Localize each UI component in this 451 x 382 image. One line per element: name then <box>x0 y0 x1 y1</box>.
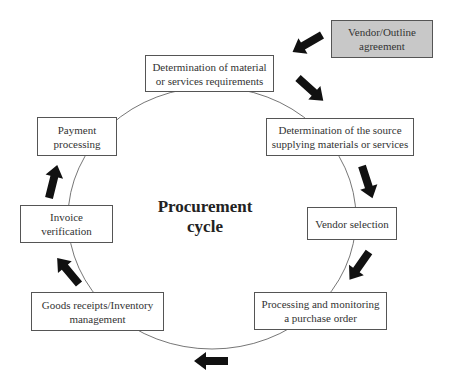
step-label: Payment <box>58 124 97 136</box>
step-label: Invoice <box>50 211 83 223</box>
step-label: Goods receipts/Inventory <box>42 299 154 311</box>
arrow-processing-to-goods-icon <box>194 352 228 370</box>
agreement-line2: agreement <box>359 40 405 52</box>
step-label: processing <box>53 138 100 150</box>
title-line2: cycle <box>187 217 223 236</box>
step-label: Determination of material <box>152 61 266 73</box>
step-goods-receipt-box: Goods receipts/Inventorymanagement <box>31 292 164 331</box>
arrow-agreement-to-requirements-icon <box>288 27 326 60</box>
step-purchase-order-box: Processing and monitoringa purchase orde… <box>254 292 387 330</box>
agreement-line1: Vendor/Outline <box>348 26 416 38</box>
step-label: a purchase order <box>284 312 357 324</box>
step-requirements-box: Determination of materialor services req… <box>145 55 274 92</box>
diagram-title: Procurement cycle <box>145 197 265 237</box>
step-label: management <box>69 313 125 325</box>
step-vendor-selection-box: Vendor selection <box>307 207 397 240</box>
step-label: Determination of the source <box>278 124 401 136</box>
step-label: Vendor selection <box>315 217 389 231</box>
title-line1: Procurement <box>158 197 253 216</box>
vendor-outline-agreement-box: Vendor/Outlineagreement <box>331 20 433 58</box>
step-label: supplying materials or services <box>272 138 409 150</box>
step-label: verification <box>41 225 92 237</box>
step-source-box: Determination of the sourcesupplying mat… <box>266 118 414 156</box>
step-payment-processing-box: Paymentprocessing <box>37 117 117 156</box>
arrow-requirements-to-source-icon <box>292 71 329 107</box>
arrow-invoice-to-payment-icon <box>40 163 66 200</box>
step-label: or services requirements <box>156 75 264 87</box>
step-invoice-verification-box: Invoiceverification <box>20 205 113 243</box>
arrow-source-to-selection-icon <box>353 163 381 201</box>
arrow-selection-to-processing-icon <box>342 247 376 285</box>
step-label: Processing and monitoring <box>262 298 380 310</box>
